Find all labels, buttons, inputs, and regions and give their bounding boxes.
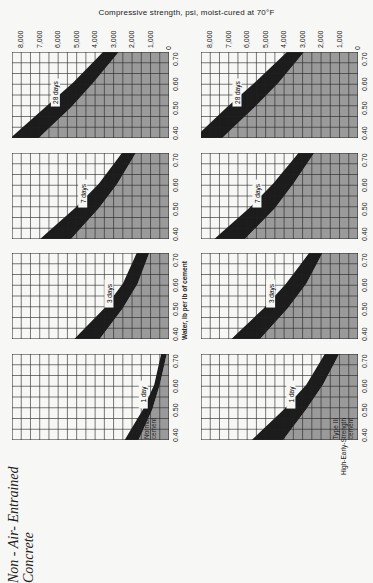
panel-type-iii-7-days: 7 days [201,153,358,239]
age-label: 1 day [288,386,296,403]
wc-tick: 0.60 [172,278,179,292]
cement-label-line: Type III [332,418,340,514]
panel-type-iii-3-days: 3 days [201,253,358,339]
strength-tick: 4,000 [280,30,287,48]
wc-tick: 0.70 [172,355,179,369]
age-label: 28 days [52,80,60,104]
wc-tick: 0.70 [172,154,179,168]
strength-tick: 8,000 [17,30,24,48]
strength-tick: 6,000 [54,30,61,48]
cement-label-type-iii: Type III High-Early-Strength cement [332,418,355,514]
strength-tick: 8,000 [206,30,213,48]
age-label: 3 days [106,283,114,303]
wc-tick: 0.70 [361,254,368,268]
strength-tick: 2,000 [128,30,135,48]
wc-tick: 0.60 [361,77,368,91]
strength-tick: 7,000 [36,30,43,48]
strength-tick: 3,000 [299,30,306,48]
strength-tick: 3,000 [110,30,117,48]
wc-tick: 0.50 [361,404,368,418]
strength-tick: 0 [165,46,172,50]
age-label: 3 days [268,283,276,303]
strength-tick: 1,000 [147,30,154,48]
wc-tick: 0.60 [361,379,368,393]
panel-type-i-3-days: 3 days [12,253,169,339]
chart-title: Compressive strength, psi, moist-cured a… [0,8,373,17]
strength-tick: 5,000 [262,30,269,48]
wc-tick: 0.50 [361,203,368,217]
strength-tick: 4,000 [91,30,98,48]
figure-heading: Non - Air- Entrained Concrete [6,466,36,583]
wc-tick: 0.70 [172,254,179,268]
wc-tick: 0.50 [172,303,179,317]
wc-tick: 0.50 [172,102,179,116]
age-label: 28 days [234,80,242,104]
wc-tick: 0.60 [361,278,368,292]
cement-label-line: cement [347,418,355,514]
wc-tick: 0.40 [172,227,179,241]
panel-type-iii-28-days: 28 days [201,52,358,138]
age-label: 7 days [80,183,88,203]
wc-tick: 0.40 [172,126,179,140]
panel-type-i-7-days: 7 days [12,153,169,239]
age-label: 7 days [254,183,262,203]
wc-tick: 0.60 [172,379,179,393]
wc-tick: 0.50 [172,404,179,418]
wc-tick: 0.60 [172,77,179,91]
strength-tick: 2,000 [317,30,324,48]
wc-tick: 0.70 [172,53,179,67]
heading-line-1: Non - Air- Entrained [6,466,21,583]
strength-tick: 1,000 [336,30,343,48]
wc-tick: 0.70 [361,355,368,369]
wc-tick: 0.70 [361,154,368,168]
wc-tick: 0.40 [361,428,368,442]
wc-tick: 0.50 [361,303,368,317]
wc-tick: 0.50 [172,203,179,217]
strength-tick: 6,000 [243,30,250,48]
wc-tick: 0.40 [361,126,368,140]
strength-tick: 0 [354,46,361,50]
wc-tick: 0.40 [361,227,368,241]
wc-tick: 0.40 [361,327,368,341]
x-axis-label: Water, lb per lb of cement [181,261,188,340]
wc-tick: 0.40 [172,428,179,442]
panel-type-i-28-days: 28 days [12,52,169,138]
heading-line-2: Concrete [21,466,36,583]
cement-label-line: Normal [143,418,151,478]
cement-label-line: High-Early-Strength [340,418,348,514]
wc-tick: 0.60 [361,178,368,192]
wc-tick: 0.50 [361,102,368,116]
wc-tick: 0.60 [172,178,179,192]
cement-label-line: cement [150,418,158,478]
strength-tick: 5,000 [73,30,80,48]
cement-label-line: Type I [135,418,143,478]
wc-tick: 0.40 [172,327,179,341]
age-label: 1 day [140,386,148,403]
wc-tick: 0.70 [361,53,368,67]
cement-label-type-i: Type I Normal cement [135,418,158,478]
strength-tick: 7,000 [225,30,232,48]
